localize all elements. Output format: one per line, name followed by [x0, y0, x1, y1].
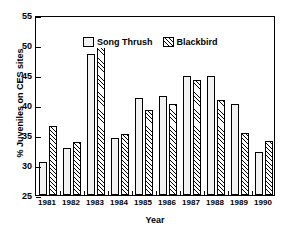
y-tick-mark — [36, 167, 41, 168]
x-tick-mark — [180, 191, 181, 195]
bar-chart-figure: 25303540455055 % Juveniles on CES sites … — [0, 0, 283, 234]
x-tick-mark — [132, 191, 133, 195]
plot-area: Song Thrush Blackbird — [35, 16, 275, 196]
x-tick-label: 1985 — [131, 198, 155, 207]
x-axis-tick-labels: 1981198219831984198519861987198819891990 — [35, 198, 275, 212]
x-tick-label: 1981 — [35, 198, 59, 207]
bar-song-thrush-1990 — [255, 152, 263, 195]
bar-blackbird-1986 — [169, 104, 177, 195]
bar-blackbird-1983 — [97, 43, 105, 195]
bar-blackbird-1985 — [145, 110, 153, 195]
y-tick-mark — [36, 77, 41, 78]
x-tick-mark — [204, 191, 205, 195]
x-tick-label: 1987 — [179, 198, 203, 207]
bar-blackbird-1984 — [121, 134, 129, 195]
y-tick-label: 55 — [22, 12, 32, 21]
y-tick-mark — [36, 137, 41, 138]
legend-entry-song-thrush: Song Thrush — [83, 37, 153, 47]
bar-song-thrush-1985 — [135, 98, 143, 195]
bar-song-thrush-1986 — [159, 96, 167, 195]
x-tick-label: 1986 — [155, 198, 179, 207]
legend-label-blackbird: Blackbird — [177, 37, 218, 47]
bar-song-thrush-1982 — [63, 148, 71, 195]
x-axis-title: Year — [35, 215, 275, 225]
x-tick-label: 1989 — [227, 198, 251, 207]
bar-song-thrush-1984 — [111, 138, 119, 195]
legend-label-song-thrush: Song Thrush — [97, 37, 153, 47]
bar-song-thrush-1988 — [207, 76, 215, 195]
x-tick-mark — [108, 191, 109, 195]
x-tick-label: 1988 — [203, 198, 227, 207]
bar-blackbird-1988 — [217, 100, 225, 195]
bar-blackbird-1989 — [241, 133, 249, 195]
bar-song-thrush-1989 — [231, 104, 239, 195]
bar-song-thrush-1983 — [87, 54, 95, 195]
x-tick-label: 1984 — [107, 198, 131, 207]
bar-blackbird-1990 — [265, 141, 273, 195]
x-tick-mark — [252, 191, 253, 195]
x-tick-label: 1990 — [251, 198, 275, 207]
legend-entry-blackbird: Blackbird — [163, 37, 218, 47]
y-tick-label: 25 — [22, 192, 32, 201]
x-tick-label: 1983 — [83, 198, 107, 207]
legend-swatch-song-thrush-icon — [83, 37, 94, 47]
y-tick-mark — [36, 107, 41, 108]
chart-legend: Song Thrush Blackbird — [81, 36, 226, 48]
x-tick-mark — [228, 191, 229, 195]
y-tick-mark — [36, 47, 41, 48]
legend-swatch-blackbird-icon — [163, 37, 174, 47]
bar-blackbird-1987 — [193, 80, 201, 195]
bar-blackbird-1981 — [49, 126, 57, 195]
bar-song-thrush-1987 — [183, 76, 191, 195]
y-axis-title: % Juveniles on CES sites — [15, 23, 25, 183]
x-tick-label: 1982 — [59, 198, 83, 207]
bar-blackbird-1982 — [73, 142, 81, 195]
x-tick-mark — [156, 191, 157, 195]
x-tick-mark — [84, 191, 85, 195]
y-tick-mark — [36, 17, 41, 18]
x-tick-mark — [60, 191, 61, 195]
